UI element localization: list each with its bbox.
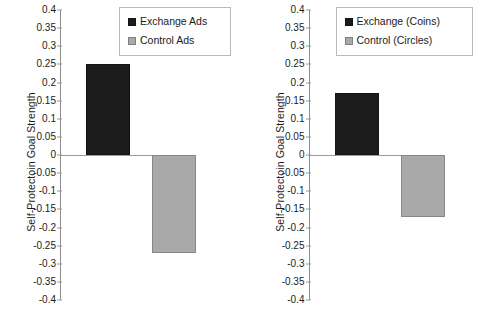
y-axis-tick-label: 0.1 xyxy=(291,114,305,124)
y-axis-tick-label: -0.35 xyxy=(282,277,305,287)
y-axis-tick-label: -0.05 xyxy=(33,168,56,178)
y-axis-tick-label: -0.2 xyxy=(287,223,304,233)
y-axis-tick-label: -0.25 xyxy=(282,241,305,251)
y-axis-tick-label: 0.4 xyxy=(42,5,56,15)
y-axis-tick-label: 0.35 xyxy=(285,23,304,33)
y-axis-tick-label: -0.25 xyxy=(33,241,56,251)
bar-control-ads xyxy=(152,155,196,253)
legend-label: Exchange Ads xyxy=(140,16,207,27)
y-axis-tick-label: 0.4 xyxy=(291,5,305,15)
chart-panel-right: Self-Protectoin Goal Strength 0.40.350.3… xyxy=(240,0,479,323)
y-axis-tick-label: 0.3 xyxy=(42,41,56,51)
legend-left: Exchange Ads Control Ads xyxy=(119,7,231,56)
legend-item: Exchange (Coins) xyxy=(345,12,464,31)
y-axis-tick-label: 0.2 xyxy=(42,78,56,88)
bar-chart-figure: Self-Protectoin Goal Strength 0.40.350.3… xyxy=(0,0,479,323)
legend-label: Control (Circles) xyxy=(357,35,433,46)
legend-item: Exchange Ads xyxy=(128,12,222,31)
y-axis-tick-label: -0.4 xyxy=(39,295,56,305)
y-axis-tick-label: 0.1 xyxy=(42,114,56,124)
y-axis-tick-label: -0.15 xyxy=(33,204,56,214)
y-axis-tick-label: -0.4 xyxy=(287,295,304,305)
y-axis-tick-label: 0.05 xyxy=(37,132,56,142)
legend-label: Control Ads xyxy=(140,35,194,46)
y-axis-tick-label: 0 xyxy=(299,150,305,160)
y-axis-tick-label: 0.2 xyxy=(291,78,305,88)
legend-swatch-icon xyxy=(345,18,353,26)
y-axis-tick-label: 0.15 xyxy=(37,96,56,106)
bar-exchange-coins xyxy=(335,93,379,155)
y-axis-tick-label: -0.3 xyxy=(287,259,304,269)
chart-panel-left: Self-Protectoin Goal Strength 0.40.350.3… xyxy=(0,0,240,323)
y-axis-tick-label: 0.25 xyxy=(285,59,304,69)
y-axis-tick-label: 0.15 xyxy=(285,96,304,106)
y-axis-tick-label: -0.3 xyxy=(39,259,56,269)
bar-exchange-ads xyxy=(86,64,130,155)
legend-label: Exchange (Coins) xyxy=(357,16,440,27)
y-axis-tick-label: 0.35 xyxy=(37,23,56,33)
y-axis-tick-label: 0.05 xyxy=(285,132,304,142)
y-axis-tick-labels-left: 0.40.350.30.250.20.150.10.050-0.05-0.1-0… xyxy=(24,10,60,300)
bar-control-circles xyxy=(401,155,445,217)
y-axis-tick-label: -0.2 xyxy=(39,223,56,233)
y-axis-tick-labels-right: 0.40.350.30.250.20.150.10.050-0.05-0.1-0… xyxy=(273,10,309,300)
legend-right: Exchange (Coins) Control (Circles) xyxy=(336,7,473,56)
legend-swatch-icon xyxy=(128,37,136,45)
y-axis-tick-label: 0 xyxy=(50,150,56,160)
y-axis-tick-label: 0.3 xyxy=(291,41,305,51)
y-axis-tick-label: -0.1 xyxy=(287,186,304,196)
legend-swatch-icon xyxy=(345,37,353,45)
y-axis-tick-label: -0.35 xyxy=(33,277,56,287)
legend-item: Control Ads xyxy=(128,31,222,50)
legend-swatch-icon xyxy=(128,18,136,26)
legend-item: Control (Circles) xyxy=(345,31,464,50)
y-axis-tick-label: -0.05 xyxy=(282,168,305,178)
y-axis-tick-label: -0.1 xyxy=(39,186,56,196)
y-axis-tick-label: 0.25 xyxy=(37,59,56,69)
y-axis-tick-label: -0.15 xyxy=(282,204,305,214)
